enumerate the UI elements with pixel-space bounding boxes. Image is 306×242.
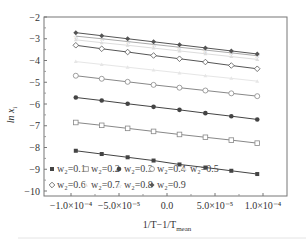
open-square-marker <box>203 135 208 140</box>
square-marker <box>229 169 233 173</box>
open-circle-marker <box>203 88 208 93</box>
legend-item: w₂=0.1 <box>50 163 86 174</box>
open-diamond-marker <box>151 53 157 59</box>
y-tick-label: −6 <box>29 99 40 110</box>
legend-label: w₂=0.8 <box>124 179 153 190</box>
open-square-marker <box>84 167 89 172</box>
circle-marker <box>99 98 104 103</box>
open-square-marker <box>229 138 234 143</box>
open-circle-marker <box>73 73 78 78</box>
circle-marker <box>74 95 79 100</box>
open-square-marker <box>125 126 130 131</box>
square-marker <box>100 152 104 156</box>
legend-item: w₂=0.2 <box>84 163 120 174</box>
x-tick-label: 1.0×10⁻⁴ <box>245 200 282 211</box>
open-circle-marker <box>99 76 104 81</box>
series-w2-0.3 <box>74 95 260 122</box>
series-w2-0.4 <box>73 73 259 98</box>
legend-item: w₂=0.3 <box>117 163 153 174</box>
open-circle-marker <box>125 79 130 84</box>
open-diamond-marker <box>125 49 131 55</box>
open-square-marker <box>99 123 104 128</box>
legend-item: w₂=0.6 <box>49 179 86 190</box>
open-diamond-marker <box>203 59 209 65</box>
open-square-marker <box>177 132 182 137</box>
y-tick-label: −7 <box>29 120 40 131</box>
x-axis-title: 1/T−1/Tmean <box>143 219 192 233</box>
star-marker: ☆ <box>116 182 122 190</box>
circle-marker <box>177 108 182 113</box>
open-diamond-marker <box>99 46 105 52</box>
open-circle-marker <box>255 94 260 99</box>
chart: −2−3−4−5−6−7−8−9−10 −1.0×10⁻⁴−5.0×10⁻⁵0.… <box>0 0 306 242</box>
y-tick-label: −2 <box>29 12 40 23</box>
square-marker <box>152 159 156 163</box>
legend-label: w₂=0.3 <box>124 163 153 174</box>
open-diamond-marker <box>49 182 55 188</box>
legend: w₂=0.1w₂=0.2w₂=0.3w₂=0.4w₂=0.5w₂=0.6w₂=0… <box>49 163 219 190</box>
legend-item: w₂=0.7 <box>84 179 120 190</box>
open-square-marker <box>255 141 260 146</box>
open-circle-marker <box>151 82 156 87</box>
open-circle-marker <box>150 167 155 172</box>
open-diamond-marker <box>254 66 260 72</box>
square-marker <box>50 167 54 171</box>
x-tick-label: −1.0×10⁻⁴ <box>50 200 93 211</box>
x-tick-label: −5.0×10⁻⁵ <box>98 200 140 211</box>
y-tick-label: −4 <box>29 55 40 66</box>
open-circle-marker <box>177 85 182 90</box>
legend-item: ☆w₂=0.8 <box>116 179 153 190</box>
legend-item: w₂=0.9 <box>150 179 186 190</box>
y-tick-label: −10 <box>24 186 40 197</box>
open-circle-marker <box>229 91 234 96</box>
y-axis-title: ln xi <box>5 107 19 124</box>
open-square-marker <box>151 129 156 134</box>
circle-marker <box>125 101 130 106</box>
legend-label: w₂=0.2 <box>91 163 120 174</box>
series-w2-0.2 <box>74 120 260 145</box>
y-tick-label: −9 <box>29 164 40 175</box>
square-marker <box>74 149 78 153</box>
square-marker <box>255 172 259 176</box>
legend-item: w₂=0.4 <box>150 163 186 174</box>
legend-label: w₂=0.4 <box>157 163 186 174</box>
square-marker <box>126 155 130 159</box>
circle-marker <box>151 105 156 110</box>
legend-label: w₂=0.9 <box>157 179 186 190</box>
legend-label: w₂=0.1 <box>57 163 86 174</box>
legend-item: w₂=0.5 <box>183 163 219 174</box>
x-tick-label: 5.0×10⁻⁵ <box>197 200 234 211</box>
open-diamond-marker <box>73 42 79 48</box>
open-diamond-marker <box>229 63 235 69</box>
circle-marker <box>203 111 208 116</box>
circle-marker <box>117 167 122 172</box>
open-square-marker <box>74 120 79 125</box>
series-lines: ☆☆☆☆☆☆☆☆ <box>73 30 260 176</box>
legend-label: w₂=0.5 <box>190 163 219 174</box>
y-tick-label: −8 <box>29 142 40 153</box>
y-tick-label: −3 <box>29 33 40 44</box>
circle-marker <box>255 117 260 122</box>
legend-label: w₂=0.6 <box>57 179 86 190</box>
circle-marker <box>229 114 234 119</box>
y-tick-label: −5 <box>29 77 40 88</box>
open-diamond-marker <box>177 56 183 62</box>
x-tick-label: 0.0 <box>161 200 174 211</box>
